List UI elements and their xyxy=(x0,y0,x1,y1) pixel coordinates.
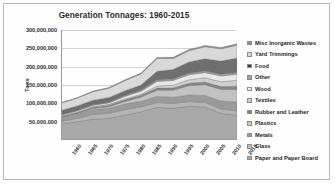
x-tick-label: 1975 xyxy=(118,143,130,156)
legend-item[interactable]: Plastics xyxy=(247,118,333,130)
x-tick-label: 1990 xyxy=(166,143,178,156)
x-tick-label: 2010 xyxy=(230,143,242,156)
legend-swatch-icon xyxy=(247,41,252,46)
legend-label: Other xyxy=(255,74,270,80)
y-tick-label: 300,000,000 xyxy=(26,27,57,33)
plot-area: 50,000,000100,000,000150,000,000200,000,… xyxy=(61,30,237,140)
legend-swatch-icon xyxy=(247,144,252,149)
x-tick-label: 1980 xyxy=(134,143,146,156)
x-tick-label: 1965 xyxy=(86,143,98,156)
legend-swatch-icon xyxy=(247,98,252,103)
legend-swatch-icon xyxy=(247,133,252,138)
legend-swatch-icon xyxy=(247,75,252,80)
chart-legend: Misc Inorganic WastesYard TrimmingsFoodO… xyxy=(247,37,333,164)
legend-swatch-icon xyxy=(247,52,252,57)
x-tick-label: 1985 xyxy=(150,143,162,156)
legend-label: Yard Trimmings xyxy=(255,51,298,57)
legend-label: Food xyxy=(255,63,269,69)
y-tick-label: 250,000,000 xyxy=(26,45,57,51)
legend-label: Metals xyxy=(255,132,273,138)
chart-title: Generation Tonnages: 1960-2015 xyxy=(4,11,244,20)
legend-item[interactable]: Misc Inorganic Wastes xyxy=(247,37,333,49)
y-tick-label: 100,000,000 xyxy=(26,100,57,106)
legend-item[interactable]: Metals xyxy=(247,129,333,141)
legend-swatch-icon xyxy=(247,121,252,126)
legend-label: Rubber and Leather xyxy=(255,109,309,115)
legend-item[interactable]: Wood xyxy=(247,83,333,95)
legend-item[interactable]: Textiles xyxy=(247,95,333,107)
legend-item[interactable]: Glass xyxy=(247,141,333,153)
legend-label: Plastics xyxy=(255,120,277,126)
y-tick-label: 150,000,000 xyxy=(26,82,57,88)
legend-label: Paper and Paper Board xyxy=(255,155,318,161)
legend-label: Glass xyxy=(255,143,271,149)
x-axis-line xyxy=(61,139,237,140)
legend-label: Misc Inorganic Wastes xyxy=(255,40,316,46)
stacked-area-series xyxy=(61,30,237,140)
legend-item[interactable]: Rubber and Leather xyxy=(247,106,333,118)
legend-swatch-icon xyxy=(247,87,252,92)
legend-item[interactable]: Paper and Paper Board xyxy=(247,152,333,164)
legend-label: Wood xyxy=(255,86,271,92)
y-tick-label: 50,000,000 xyxy=(29,119,57,125)
legend-item[interactable]: Food xyxy=(247,60,333,72)
y-axis-line xyxy=(61,30,62,140)
x-tick-label: 1970 xyxy=(102,143,114,156)
legend-swatch-icon xyxy=(247,64,252,69)
chart-card: Generation Tonnages: 1960-2015 Tons 50,0… xyxy=(3,3,330,180)
x-tick-label: 1995 xyxy=(182,143,194,156)
legend-item[interactable]: Yard Trimmings xyxy=(247,49,333,61)
legend-swatch-icon xyxy=(247,156,252,161)
legend-item[interactable]: Other xyxy=(247,72,333,84)
x-tick-label: 2005 xyxy=(214,143,226,156)
x-tick-label: 1960 xyxy=(70,143,82,156)
legend-label: Textiles xyxy=(255,97,276,103)
x-tick-label: 2000 xyxy=(198,143,210,156)
y-tick-label: 200,000,000 xyxy=(26,64,57,70)
legend-swatch-icon xyxy=(247,110,252,115)
